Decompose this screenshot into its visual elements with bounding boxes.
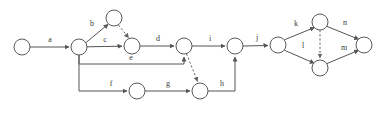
edge-label-a: a xyxy=(48,35,52,44)
edge-k xyxy=(284,28,314,40)
edge-n xyxy=(327,26,359,39)
edge-l xyxy=(284,50,314,63)
edge-label-g: g xyxy=(166,79,170,88)
edge-m xyxy=(327,50,359,63)
edge-label-i: i xyxy=(209,34,212,43)
edge-label-m: m xyxy=(341,43,348,52)
edges-dashed-group xyxy=(119,25,321,81)
edge-c xyxy=(87,46,122,47)
graph-canvas: a b c d e f g h i j k l m n xyxy=(0,0,386,115)
node-n7[interactable] xyxy=(312,14,328,30)
edge-label-d: d xyxy=(156,34,160,43)
edge-dashed-n2-n3 xyxy=(119,25,129,38)
node-n5[interactable] xyxy=(227,38,243,54)
edge-label-e: e xyxy=(129,53,133,62)
edge-label-b: b xyxy=(90,19,94,28)
edge-label-n: n xyxy=(343,18,347,27)
edge-j xyxy=(243,46,268,47)
node-n9[interactable] xyxy=(356,37,372,53)
edge-labels-group: a b c d e f g h i j k l m n xyxy=(48,18,348,88)
edge-label-h: h xyxy=(220,79,224,88)
node-n10[interactable] xyxy=(129,83,145,99)
edge-label-j: j xyxy=(255,33,258,42)
edge-label-k: k xyxy=(294,19,298,28)
edge-label-c: c xyxy=(103,35,107,44)
node-n0[interactable] xyxy=(14,39,30,55)
edge-label-l: l xyxy=(302,41,305,50)
node-n3[interactable] xyxy=(124,38,140,54)
node-n2[interactable] xyxy=(106,10,122,26)
graph-diagram: a b c d e f g h i j k l m n xyxy=(0,0,386,115)
node-n1[interactable] xyxy=(71,39,87,55)
node-n6[interactable] xyxy=(270,37,286,53)
nodes-group xyxy=(14,10,372,99)
node-n11[interactable] xyxy=(192,83,208,99)
edges-solid-group xyxy=(30,24,359,91)
edge-label-f: f xyxy=(110,79,113,88)
node-n4[interactable] xyxy=(176,38,192,54)
node-n8[interactable] xyxy=(312,60,328,76)
edge-dashed-n4-n11 xyxy=(187,54,198,82)
edge-f xyxy=(79,55,127,91)
